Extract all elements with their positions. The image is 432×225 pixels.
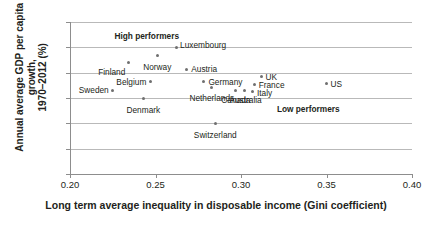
data-point-australia[interactable]	[243, 89, 246, 92]
data-point-france[interactable]	[253, 83, 256, 86]
data-point-switzerland[interactable]	[214, 122, 217, 125]
data-point-uk[interactable]	[260, 75, 263, 78]
gridline	[70, 149, 412, 150]
scatter-chart: Long term average inequality in disposab…	[0, 0, 432, 225]
x-tick-label: 0.30	[218, 180, 264, 190]
gridline	[70, 123, 412, 124]
data-point-label-belgium: Belgium	[116, 78, 146, 86]
data-point-label-norway: Norway	[143, 63, 171, 71]
data-point-luxembourg[interactable]	[175, 46, 178, 49]
data-point-label-italy: Italy	[257, 89, 272, 97]
data-point-label-us: US	[331, 80, 343, 88]
y-tick-mark	[66, 149, 70, 150]
data-point-label-sweden: Sweden	[79, 86, 109, 94]
annotation-high-performers: High performers	[114, 32, 179, 40]
gridline	[70, 22, 412, 23]
y-tick-mark	[66, 22, 70, 23]
x-tick-mark	[156, 174, 157, 178]
data-point-label-austria: Austria	[191, 65, 217, 73]
y-axis-title: Annual average GDP per capita growth, 19…	[14, 0, 49, 165]
data-point-denmark[interactable]	[142, 97, 145, 100]
data-point-finland[interactable]	[127, 61, 130, 64]
x-tick-mark	[70, 174, 71, 178]
data-point-us[interactable]	[325, 82, 328, 85]
x-tick-label: 0.40	[389, 180, 432, 190]
x-tick-label: 0.25	[133, 180, 179, 190]
gridline	[70, 47, 412, 48]
y-tick-mark	[66, 47, 70, 48]
data-point-label-france: France	[259, 81, 285, 89]
x-tick-label: 0.20	[47, 180, 93, 190]
x-tick-mark	[327, 174, 328, 178]
annotation-low-performers: Low performers	[277, 105, 340, 113]
data-point-label-finland: Finland	[98, 68, 125, 76]
data-point-label-uk: UK	[266, 73, 278, 81]
y-tick-mark	[66, 98, 70, 99]
data-point-austria[interactable]	[185, 68, 188, 71]
data-point-label-denmark: Denmark	[127, 106, 161, 114]
y-axis-title-line1: Annual average GDP per capita growth,	[14, 3, 37, 152]
data-point-label-luxembourg: Luxembourg	[180, 41, 226, 49]
data-point-germany[interactable]	[202, 80, 205, 83]
y-axis-line	[70, 22, 71, 174]
y-tick-mark	[66, 123, 70, 124]
y-tick-mark	[66, 73, 70, 74]
x-tick-mark	[241, 174, 242, 178]
y-axis-title-line2: 1970–2012 (%)	[37, 43, 48, 111]
data-point-label-switzerland: Switzerland	[194, 131, 237, 139]
data-point-label-germany: Germany	[208, 78, 242, 86]
x-tick-label: 0.35	[304, 180, 350, 190]
x-axis-title: Long term average inequality in disposab…	[0, 199, 432, 211]
x-tick-mark	[412, 174, 413, 178]
